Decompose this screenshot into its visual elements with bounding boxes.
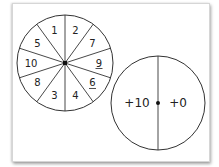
spinner-right-left-label: +10 — [124, 96, 149, 110]
spinner-right-pivot — [156, 101, 160, 105]
spinner-left-sector-label: 8 — [34, 77, 40, 88]
spinners-diagram: 27964381051 +10 +0 — [0, 0, 219, 167]
spinner-right-right-label: +0 — [169, 96, 187, 110]
spinner-right: +10 +0 — [111, 56, 205, 150]
spinner-left-sector-label: 3 — [51, 90, 57, 101]
spinner-left-sector-label: 1 — [51, 25, 57, 36]
spinner-left-sector-label: 5 — [34, 38, 40, 49]
spinner-left-sector-label: 7 — [89, 38, 95, 49]
spinner-left: 27964381051 — [17, 15, 113, 111]
spinner-left-sector-label: 2 — [72, 25, 78, 36]
spinner-left-pivot — [63, 61, 67, 65]
spinner-left-sector-label: 9 — [96, 58, 102, 69]
spinner-left-sector-label: 4 — [72, 90, 78, 101]
spinner-left-sector-label: 6 — [89, 77, 95, 88]
spinner-left-sector-label: 10 — [25, 58, 38, 69]
